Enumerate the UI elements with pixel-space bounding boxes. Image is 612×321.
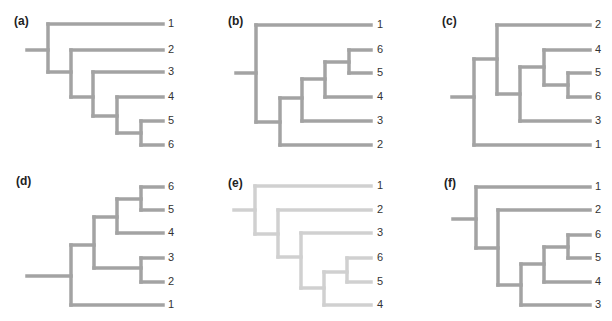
leaf-label: 5: [595, 67, 601, 78]
leaf-label: 3: [595, 299, 601, 310]
panel-label-e: (e): [228, 176, 243, 190]
tree-panel-d: [27, 187, 163, 305]
leaf-label: 1: [168, 18, 174, 29]
leaf-label: 4: [595, 44, 601, 55]
leaf-label: 5: [595, 252, 601, 263]
leaf-label: 6: [595, 91, 601, 102]
leaf-label: 3: [168, 252, 174, 263]
leaf-label: 2: [168, 276, 174, 287]
leaf-label: 5: [168, 115, 174, 126]
tree-panel-f: [453, 187, 590, 305]
leaf-label: 2: [595, 19, 601, 30]
panel-label-b: (b): [228, 14, 243, 28]
panel-label-c: (c): [442, 14, 457, 28]
tree-panel-a: [27, 24, 163, 145]
leaf-label: 2: [168, 44, 174, 55]
leaf-label: 4: [377, 91, 383, 102]
leaf-label: 2: [377, 139, 383, 150]
leaf-label: 1: [595, 139, 601, 150]
leaf-label: 6: [377, 44, 383, 55]
leaf-label: 1: [595, 181, 601, 192]
leaf-label: 5: [168, 204, 174, 215]
panel-label-a: (a): [14, 14, 29, 28]
leaf-label: 3: [377, 227, 383, 238]
tree-panel-e: [234, 186, 371, 305]
leaf-label: 1: [377, 19, 383, 30]
leaf-label: 3: [595, 115, 601, 126]
leaf-label: 4: [595, 276, 601, 287]
tree-panel-c: [452, 25, 590, 145]
leaf-label: 6: [168, 181, 174, 192]
leaf-label: 1: [168, 299, 174, 310]
leaf-label: 4: [168, 227, 174, 238]
leaf-label: 5: [377, 67, 383, 78]
leaf-label: 3: [168, 66, 174, 77]
tree-branches: [0, 0, 612, 321]
leaf-label: 2: [595, 204, 601, 215]
panel-label-d: (d): [16, 174, 31, 188]
leaf-label: 4: [168, 91, 174, 102]
leaf-label: 6: [377, 252, 383, 263]
panel-label-f: (f): [444, 176, 456, 190]
leaf-label: 6: [168, 139, 174, 150]
leaf-label: 3: [377, 115, 383, 126]
leaf-label: 4: [377, 299, 383, 310]
leaf-label: 6: [595, 229, 601, 240]
tree-panel-b: [236, 25, 371, 145]
leaf-label: 5: [377, 276, 383, 287]
leaf-label: 1: [377, 180, 383, 191]
leaf-label: 2: [377, 204, 383, 215]
phylogenetic-trees-figure: (a)123456(b)165432(c)245631(d)654321(e)1…: [0, 0, 612, 321]
